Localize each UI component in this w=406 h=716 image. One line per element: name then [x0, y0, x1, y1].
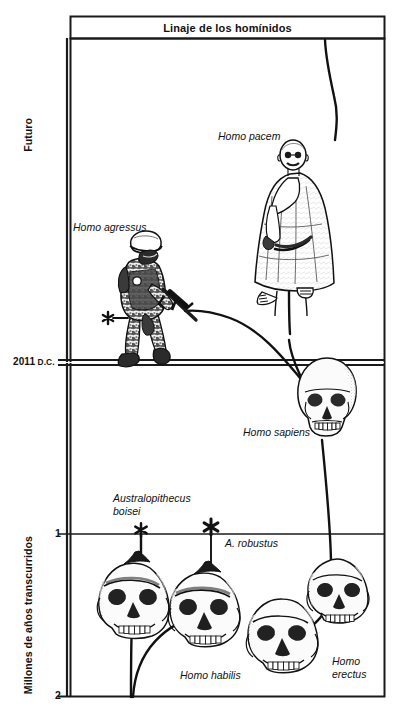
species-label-homo-sapiens: Homo sapiens	[243, 426, 310, 439]
species-label-a-robustus: A. robustus	[225, 537, 278, 550]
axis-tick-2: 2	[55, 689, 61, 701]
axis-tick-2011-value: 2011	[13, 356, 35, 367]
branch-sapiens-to-agressus	[185, 311, 300, 378]
asterisk-robustus	[204, 519, 218, 535]
branch-erectus-to-sapiens	[322, 440, 331, 560]
species-label-australopithecus-boisei: Australopithecus boisei	[113, 492, 191, 517]
skull-a-robustus	[168, 561, 240, 647]
species-label-homo-erectus: Homo erectus	[332, 655, 366, 680]
axis-tick-2011: 2011 D.C.	[13, 356, 55, 367]
figure-homo-agressus	[118, 231, 196, 367]
species-label-homo-pacem: Homo pacem	[218, 130, 280, 143]
asterisk-agressus	[103, 312, 113, 324]
axis-label-future: Futuro	[22, 118, 34, 152]
skull-homo-habilis	[246, 599, 318, 673]
skull-homo-erectus	[307, 559, 369, 623]
figure-homo-pacem	[255, 140, 334, 316]
page-title: Linaje de los homínidos	[70, 17, 385, 38]
species-label-homo-habilis: Homo habilis	[180, 669, 241, 682]
skull-australopithecus-boisei	[97, 551, 169, 638]
lineage-diagram-canvas	[0, 0, 406, 716]
axis-tick-1: 1	[55, 527, 61, 539]
axis-tick-2011-suffix: D.C.	[35, 357, 55, 367]
figure-root: Linaje de los homínidos Futuro Millones …	[0, 0, 406, 716]
branch-pacem-top	[325, 40, 337, 140]
species-label-homo-agressus: Homo agressus	[73, 221, 147, 234]
axis-label-millions-of-years: Millones de años transcurridos	[22, 536, 34, 694]
skull-homo-sapiens	[298, 358, 356, 436]
branch-pacem-stem	[289, 288, 290, 334]
